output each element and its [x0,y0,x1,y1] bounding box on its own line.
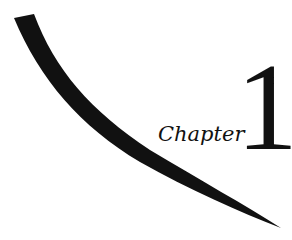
chapter-number: 1 [236,46,292,170]
chapter-label: Chapter [158,124,244,145]
